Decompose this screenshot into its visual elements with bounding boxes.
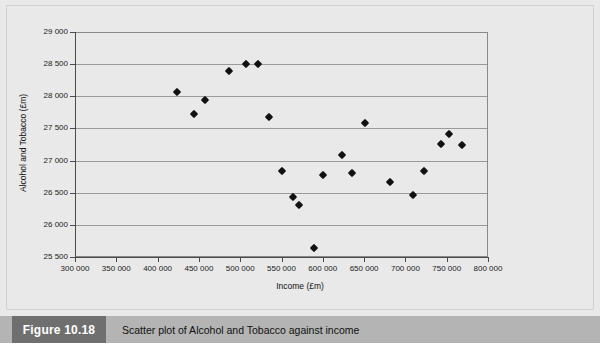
x-tick-label: 550 000 [267,264,296,273]
page-bottom-margin [0,343,600,359]
x-tick-label: 300 000 [61,264,90,273]
figure-container: 25 50026 00026 50027 00027 50028 00028 5… [0,0,600,359]
y-axis-title: Alcohol and Tobacco (£m) [18,63,28,223]
y-tick-label: 28 500 [22,60,68,68]
x-tick-mark [447,257,448,262]
x-tick-label: 700 000 [391,264,420,273]
x-tick-label: 600 000 [308,264,337,273]
x-tick-mark [199,257,200,262]
x-tick-label: 400 000 [143,264,172,273]
x-tick-mark [364,257,365,262]
x-tick-mark [405,257,406,262]
y-tick-label: 25 500 [22,253,68,261]
y-axis-line [75,32,76,258]
x-tick-mark [323,257,324,262]
gridline [76,96,487,97]
y-tick-label: 26 000 [22,221,68,229]
figure-number-tag: Figure 10.18 [12,316,106,343]
x-tick-label: 450 000 [184,264,213,273]
gridline [76,225,487,226]
y-tick-label: 26 500 [22,189,68,197]
x-tick-mark [240,257,241,262]
gridline [76,193,487,194]
y-tick-mark [70,128,75,129]
scatter-chart: 25 50026 00026 50027 00027 50028 00028 5… [0,0,600,316]
x-tick-mark [116,257,117,262]
figure-caption: Scatter plot of Alcohol and Tobacco agai… [122,316,359,343]
x-tick-mark [158,257,159,262]
x-tick-label: 500 000 [226,264,255,273]
gridline [76,64,487,65]
x-tick-mark [75,257,76,262]
x-tick-label: 750 000 [432,264,461,273]
x-tick-label: 350 000 [102,264,131,273]
x-tick-mark [488,257,489,262]
x-axis-title: Income (£m) [0,281,600,291]
gridline [76,128,487,129]
x-tick-label: 650 000 [350,264,379,273]
y-tick-label: 27 500 [22,124,68,132]
y-tick-label: 28 000 [22,92,68,100]
x-tick-mark [282,257,283,262]
gridline [76,161,487,162]
y-tick-label: 27 000 [22,157,68,165]
y-tick-mark [70,96,75,97]
y-tick-mark [70,32,75,33]
y-tick-mark [70,64,75,65]
y-tick-mark [70,225,75,226]
y-tick-label: 29 000 [22,28,68,36]
plot-frame [75,32,488,257]
y-tick-mark [70,193,75,194]
x-tick-label: 800 000 [474,264,503,273]
y-tick-mark [70,161,75,162]
